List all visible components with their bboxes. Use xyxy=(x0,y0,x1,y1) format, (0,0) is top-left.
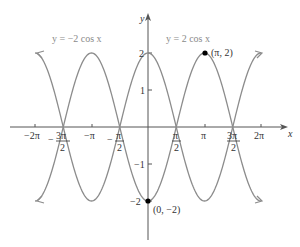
label-point-0-neg2: (0, −2) xyxy=(153,204,180,216)
point-0-neg2 xyxy=(145,198,150,203)
svg-text:2: 2 xyxy=(60,142,65,153)
cosine-graph: y x y = −2 cos x y = 2 cos x (π, 2) (0, … xyxy=(0,0,300,247)
svg-text:3π: 3π xyxy=(56,130,66,141)
label-neg2cos: y = −2 cos x xyxy=(52,33,102,44)
ytick-2: 2 xyxy=(139,48,144,59)
svg-text:3π: 3π xyxy=(227,130,237,141)
y-axis-label: y xyxy=(139,13,145,24)
xtick-2pi: 2π xyxy=(254,130,264,141)
xtick-pi: π xyxy=(201,130,206,141)
ytick-minus-2: −2 xyxy=(130,196,141,207)
svg-text:π: π xyxy=(173,130,178,141)
svg-text:2: 2 xyxy=(174,142,179,153)
ytick-minus-1: −1 xyxy=(134,159,145,170)
label-point-pi-2: (π, 2) xyxy=(211,47,233,59)
ytick-1: 1 xyxy=(140,85,145,96)
x-axis-label: x xyxy=(287,128,293,139)
svg-text:π: π xyxy=(116,130,121,141)
svg-text:2: 2 xyxy=(231,142,236,153)
label-2cos: y = 2 cos x xyxy=(166,33,210,44)
point-pi-2 xyxy=(202,50,207,55)
xtick-minus-2pi: −2π xyxy=(24,130,40,141)
svg-text:2: 2 xyxy=(117,142,122,153)
svg-text:−: − xyxy=(48,134,54,145)
xtick-minus-pi: −π xyxy=(84,130,95,141)
svg-text:−: − xyxy=(107,134,113,145)
